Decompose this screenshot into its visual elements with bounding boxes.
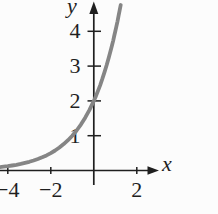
graph-canvas: −4−22 1234 y x: [0, 0, 218, 214]
exponential-curve: [0, 5, 121, 167]
y-tick-label: 3: [70, 53, 81, 78]
x-tick-label: −4: [0, 177, 20, 202]
y-axis-ticks: 1234: [70, 18, 102, 147]
y-tick-label: 2: [70, 88, 81, 113]
y-tick-label: 4: [70, 18, 81, 43]
x-tick-label: 2: [131, 177, 142, 202]
y-axis-label: y: [65, 0, 77, 18]
x-axis-arrowhead-icon: [148, 166, 160, 175]
x-axis-label: x: [161, 151, 172, 176]
x-axis-ticks: −4−22: [0, 167, 142, 202]
exponential-function-graph: −4−22 1234 y x: [0, 0, 218, 214]
y-axis-arrowhead-icon: [89, 2, 98, 15]
x-tick-label: −2: [39, 177, 62, 202]
